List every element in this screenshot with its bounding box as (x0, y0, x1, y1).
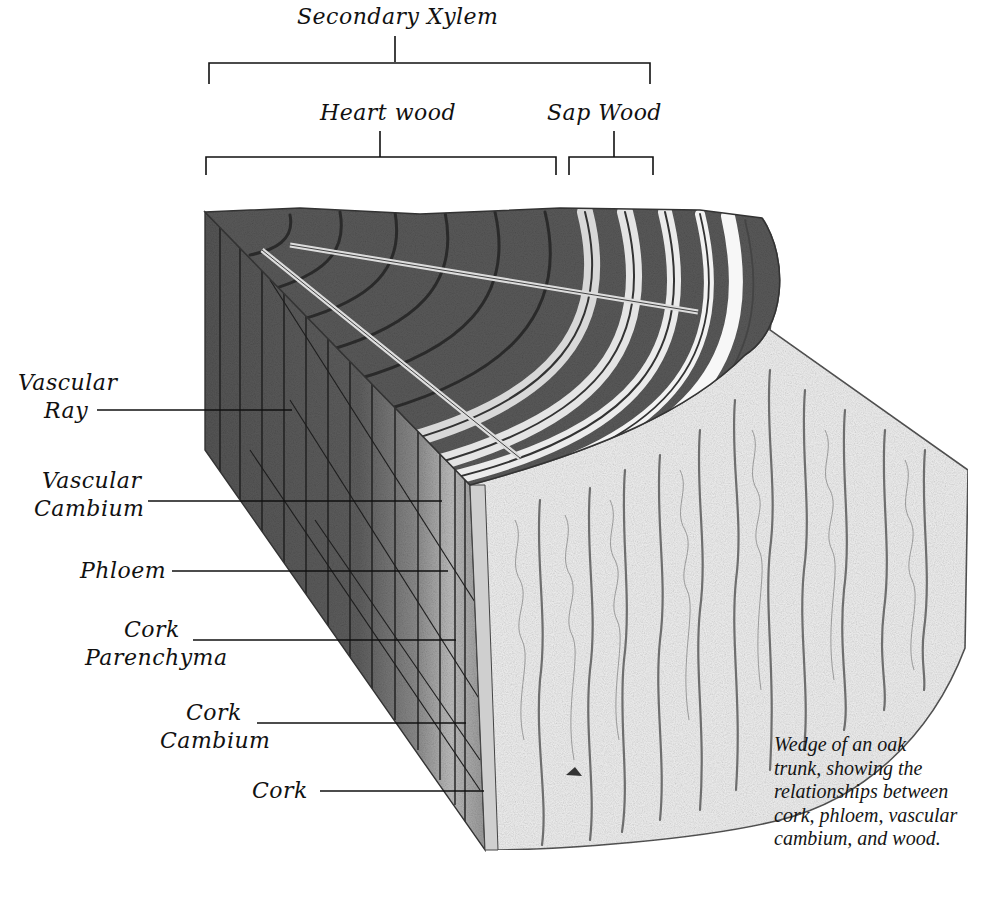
vascular-cambium-label-line2: Cambium (34, 496, 144, 521)
cork-cambium-label-line2: Cambium (160, 728, 270, 753)
caption-line: cork, phloem, vascular (774, 804, 1004, 828)
cork-cambium-label-line1: Cork (186, 700, 242, 725)
vascular-ray-label-line2: Ray (43, 398, 88, 423)
secondary-xylem-bracket (209, 36, 650, 84)
figure-caption: Wedge of an oak trunk, showing the relat… (774, 733, 1004, 851)
heart-wood-label: Heart wood (319, 100, 456, 125)
caption-line: trunk, showing the (774, 757, 1004, 781)
sap-wood-bracket (569, 131, 653, 175)
vascular-cambium-label-line1: Vascular (42, 468, 142, 493)
heart-wood-bracket (206, 131, 556, 175)
caption-line: Wedge of an oak (774, 733, 1004, 757)
caption-line: relationships between (774, 780, 1004, 804)
cork-label: Cork (252, 778, 308, 803)
cork-parenchyma-label-line1: Cork (124, 617, 180, 642)
caption-line: cambium, and wood. (774, 827, 1004, 851)
secondary-xylem-label: Secondary Xylem (297, 4, 498, 29)
sap-wood-label: Sap Wood (547, 100, 662, 125)
vascular-ray-label-line1: Vascular (18, 370, 118, 395)
phloem-label: Phloem (79, 558, 166, 583)
cork-parenchyma-label-line2: Parenchyma (84, 645, 228, 670)
